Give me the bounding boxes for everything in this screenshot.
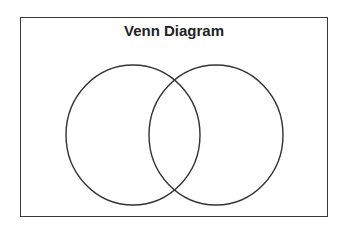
venn-circle-b: [149, 65, 283, 205]
venn-circle-a: [66, 65, 200, 205]
venn-diagram: [0, 0, 343, 226]
